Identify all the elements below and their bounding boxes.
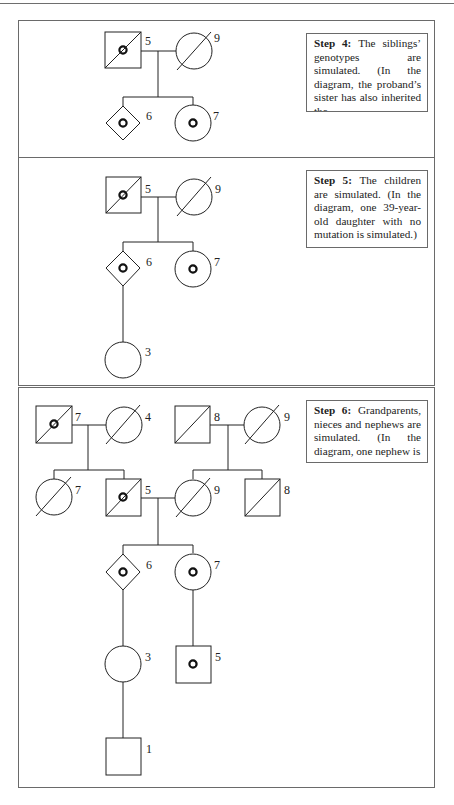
label-maternal-grandfather: 8 bbox=[214, 410, 220, 424]
label-father: 5 bbox=[145, 483, 151, 497]
label-nephew: 5 bbox=[215, 650, 221, 664]
label-paternal-grandfather: 7 bbox=[75, 410, 81, 424]
label-aunt: 7 bbox=[75, 483, 81, 497]
label-uncle: 8 bbox=[284, 483, 290, 497]
male-deceased-symbol bbox=[245, 479, 280, 516]
label-sister: 7 bbox=[214, 558, 220, 572]
label-proband: 6 bbox=[146, 558, 152, 572]
female-deceased-symbol bbox=[175, 478, 211, 517]
step-6-description: Step 6: Grandparents, nieces and nephews… bbox=[306, 400, 428, 463]
label-paternal-grandmother: 4 bbox=[145, 410, 151, 424]
male-unaffected-symbol bbox=[106, 738, 141, 775]
proband-diamond-carrier-symbol bbox=[106, 554, 140, 590]
female-deceased-symbol bbox=[36, 477, 72, 516]
male-deceased-carrier-symbol bbox=[106, 479, 141, 516]
male-carrier-symbol bbox=[176, 646, 211, 683]
label-mother: 9 bbox=[214, 483, 220, 497]
female-unaffected-symbol bbox=[105, 646, 141, 682]
step-6-title: Step 6: bbox=[314, 404, 358, 416]
female-deceased-symbol bbox=[106, 405, 142, 444]
label-maternal-grandmother: 9 bbox=[284, 410, 290, 424]
female-carrier-symbol bbox=[175, 554, 211, 590]
relationship-lines bbox=[54, 425, 262, 479]
female-deceased-symbol bbox=[244, 405, 280, 444]
label-grandson: 1 bbox=[146, 742, 152, 756]
relationship-lines bbox=[123, 498, 193, 738]
label-daughter: 3 bbox=[145, 650, 151, 664]
male-deceased-symbol bbox=[175, 406, 210, 443]
male-deceased-carrier-symbol bbox=[36, 406, 72, 443]
